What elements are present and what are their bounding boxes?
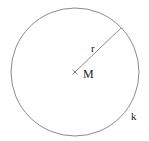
center-label: M — [83, 67, 94, 81]
center-point-marker — [73, 70, 78, 75]
radius-line — [75, 28, 121, 72]
circle-label: k — [131, 110, 137, 122]
radius-label: r — [91, 42, 95, 54]
circle-diagram: M r k — [0, 0, 149, 141]
